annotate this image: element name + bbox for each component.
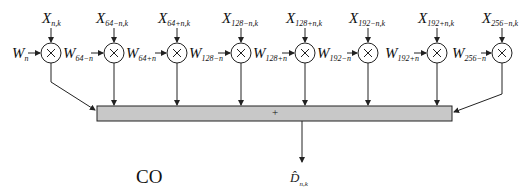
x-label-5: X192−n,k xyxy=(349,10,385,28)
x-label-3: X128−n,k xyxy=(222,10,258,28)
x-label-2: X64+n,k xyxy=(158,10,190,28)
x-input-arrows xyxy=(51,28,502,42)
output-label: D̂n,k xyxy=(290,170,308,188)
x-label-0: Xn,k xyxy=(42,10,61,28)
product-arrows xyxy=(51,63,502,112)
diagram-caption: CO xyxy=(136,166,162,188)
w-label-0: W64−n xyxy=(63,45,93,63)
w-label-initial: Wn xyxy=(12,45,29,63)
x-label-1: X64−n,k xyxy=(96,10,128,28)
w-label-6: W256−n xyxy=(452,45,486,63)
w-label-3: W128+n xyxy=(253,45,287,63)
x-label-4: X128+n,k xyxy=(286,10,322,28)
x-label-6: X192+n,k xyxy=(418,10,454,28)
w-label-4: W192−n xyxy=(317,45,351,63)
w-label-1: W64+n xyxy=(126,45,156,63)
w-label-5: W192+n xyxy=(385,45,419,63)
w-label-2: W128−n xyxy=(189,45,223,63)
adder-symbol: + xyxy=(272,106,278,118)
diagram-canvas xyxy=(0,0,524,194)
x-label-7: X256−n,k xyxy=(482,10,518,28)
